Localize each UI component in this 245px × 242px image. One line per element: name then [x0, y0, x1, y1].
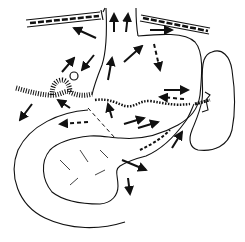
arrow-icon	[82, 55, 94, 70]
arrow-icon	[20, 104, 32, 120]
curved-loop	[14, 110, 125, 228]
arrow-icon	[126, 14, 128, 32]
arrow-icon	[172, 132, 182, 148]
arrow-icon	[62, 58, 74, 72]
anatomical-diagram	[0, 0, 245, 242]
arrow-icon	[122, 160, 146, 170]
lobulated-organ	[43, 104, 194, 204]
vessel-right	[140, 15, 210, 34]
arrow-icon	[58, 100, 70, 108]
upper-sac	[120, 34, 202, 138]
arrow-icon	[74, 28, 96, 38]
dashed-arrow-icon	[154, 44, 160, 70]
arrow-icon	[128, 178, 130, 194]
arrow-icon	[108, 104, 112, 118]
dashed-arrows	[60, 44, 184, 124]
arrow-icon	[138, 122, 158, 128]
ear-shaped-organ	[190, 51, 235, 150]
dashed-arrow-icon	[160, 97, 184, 99]
arrow-icon	[124, 118, 144, 124]
vessel-left	[26, 10, 103, 27]
dashed-arrow-icon	[60, 122, 88, 124]
coiled-vessel-left	[16, 72, 92, 95]
arrow-icon	[124, 46, 142, 62]
arrow-icon	[108, 58, 112, 80]
